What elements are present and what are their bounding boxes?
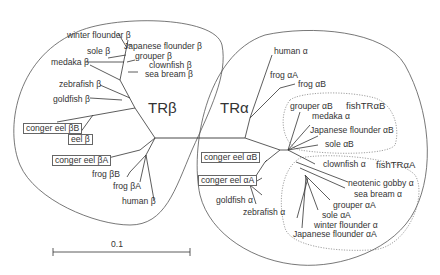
scale-bar-label: 0.1 [111, 240, 123, 249]
leaf-sea-bream-beta: sea bream β [145, 70, 193, 79]
leaf-neotenic-gobby-alpha: neotenic gobby α [348, 179, 414, 188]
leaf-sole-alpha-b: sole αB [325, 140, 354, 149]
leaf-conger-eel-beta-b: conger eel βB [23, 123, 82, 134]
leaf-grouper-alpha-a: grouper αA [333, 201, 376, 210]
leaf-conger-eel-beta-a: conger eel βA [52, 155, 111, 166]
leaf-grouper-alpha-b: grouper αB [290, 102, 333, 111]
leaf-frog-alpha-a: frog αA [270, 71, 298, 80]
leaf-zebrafish-alpha: zebrafish α [243, 208, 285, 217]
subclade-label-fish-tr-alpha-a: fishTRαA [376, 160, 415, 170]
leaf-clownfish-alpha: clownfish α [323, 160, 366, 169]
subclade-label-fish-tr-alpha-b: fishTRαB [346, 101, 385, 111]
leaf-zebrafish-beta: zebrafish β [59, 80, 101, 89]
leaf-winter-flounder-beta: winter flounder β [67, 31, 131, 40]
leaf-eel-beta: eel β [68, 134, 93, 145]
leaf-human-beta: human β [122, 197, 156, 206]
leaf-sole-alpha-a: sole αA [322, 211, 351, 220]
leaf-medaka-alpha: medaka α [312, 112, 350, 121]
leaf-sole-beta: sole β [87, 47, 110, 56]
leaf-goldfish-beta: goldfish β [53, 95, 90, 104]
leaf-frog-beta-a: frog βA [113, 182, 141, 191]
leaf-frog-beta-b: frog βB [92, 170, 120, 179]
scale-bar [53, 248, 190, 256]
leaf-conger-eel-alpha-a: conger eel αA [198, 175, 257, 186]
leaf-japanese-flounder-alpha-a: Japanese flounder αA [293, 230, 377, 239]
leaf-medaka-beta: medaka β [51, 58, 89, 67]
clade-label-tr-alpha: TRα [220, 100, 249, 115]
leaf-japanese-flounder-beta: Japanese flounder β [124, 42, 202, 51]
leaf-goldfish-alpha: goldfish α [216, 196, 253, 205]
leaf-sea-bream-alpha: sea bream α [354, 190, 402, 199]
leaf-japanese-flounder-alpha-b: Japanese flounder αB [310, 126, 394, 135]
leaf-conger-eel-alpha-b: conger eel αB [201, 152, 260, 163]
clade-label-tr-beta: TRβ [148, 100, 177, 115]
leaf-human-alpha: human α [274, 47, 308, 56]
leaf-frog-alpha-b: frog αB [298, 80, 326, 89]
